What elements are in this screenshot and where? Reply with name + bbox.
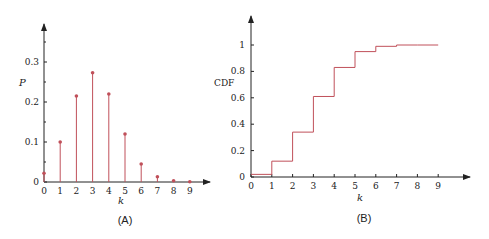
figure: 00.10.20.3 0123456789 P k (A) 00.20.40.6… [0,0,489,239]
stem-marker [42,171,46,175]
x-tick-label: 6 [373,181,379,191]
x-tick-label: 8 [415,181,421,191]
y-tick-label: 0 [239,172,245,182]
chart-a: 00.10.20.3 0123456789 P k (A) [18,24,210,226]
x-tick-label: 0 [248,181,254,191]
stem-marker [107,92,111,96]
x-tick-label: 0 [41,186,47,196]
x-tick-label: 8 [171,186,177,196]
y-tick-label: 1 [239,40,245,50]
stem-marker [75,94,79,98]
x-tick-label: 9 [187,186,193,196]
x-tick-label: 7 [394,181,400,191]
y-tick-label: 0.2 [25,97,39,107]
y-tick-label: 0.8 [231,66,246,76]
x-tick-label: 3 [90,186,96,196]
x-tick-label: 2 [74,186,80,196]
x-tick-label: 9 [435,181,441,191]
chart-a-xlabel: k [118,195,124,206]
x-tick-label: 2 [290,181,296,191]
x-tick-label: 3 [311,181,317,191]
stem-marker [58,140,62,144]
stem-marker [172,179,176,183]
x-tick-label: 1 [269,181,275,191]
chart-a-caption: (A) [118,214,133,226]
chart-a-ylabel: P [18,77,26,88]
stem-marker [188,180,192,184]
y-tick-label: 0.4 [231,119,246,129]
stem-marker [139,162,143,166]
x-tick-label: 4 [106,186,112,196]
y-tick-label: 0.6 [231,93,246,103]
stem-marker [156,175,160,179]
chart-b-caption: (B) [357,212,372,224]
stem-marker [123,132,127,136]
chart-b-xlabel: k [357,192,363,203]
y-tick-label: 0 [33,177,39,187]
chart-b-step-line [251,45,438,174]
x-tick-label: 1 [57,186,63,196]
y-tick-label: 0.3 [25,57,40,67]
x-tick-label: 7 [155,186,161,196]
x-tick-label: 5 [352,181,358,191]
x-tick-label: 6 [138,186,144,196]
chart-b: 00.20.40.60.81 0123456789 CDF k (B) [214,16,470,224]
stem-marker [91,71,95,75]
chart-a-stems [42,71,191,184]
y-tick-label: 0.1 [25,137,39,147]
chart-b-ylabel: CDF [214,78,234,88]
x-tick-label: 4 [331,181,337,191]
y-tick-label: 0.2 [231,146,245,156]
